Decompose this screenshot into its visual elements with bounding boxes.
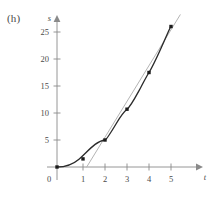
data-point-t4: [147, 71, 150, 74]
x-axis-arrow-icon: [196, 164, 203, 171]
origin-label: 0: [47, 174, 51, 184]
x-tick-label-1: 1: [81, 174, 85, 184]
y-axis-label: s: [48, 13, 52, 23]
y-tick-label-25: 25: [41, 27, 50, 37]
y-tick-label-5: 5: [45, 135, 49, 145]
x-tick-label-4: 4: [147, 174, 152, 184]
x-tick-label-5: 5: [169, 174, 173, 184]
data-point-t3: [125, 108, 128, 111]
figure-container: (h) 1 2 3 4 5 0: [0, 0, 215, 200]
axes-group: [47, 15, 203, 180]
data-point-t2: [103, 138, 106, 141]
y-axis-arrow-icon: [54, 15, 61, 22]
data-point-markers: [55, 25, 172, 169]
x-axis-label: t: [204, 172, 207, 182]
y-axis-tick-labels: 5 10 15 20 25: [41, 27, 50, 145]
data-point-t1: [81, 157, 84, 160]
x-tick-label-2: 2: [103, 174, 107, 184]
chart-plot: 1 2 3 4 5 0 5 10 15 20 25 s t: [0, 0, 215, 200]
data-point-t0: [55, 165, 58, 168]
y-tick-label-15: 15: [41, 81, 50, 91]
x-axis-tick-labels: 1 2 3 4 5: [81, 174, 173, 184]
data-point-t5: [169, 25, 172, 28]
x-tick-label-3: 3: [125, 174, 129, 184]
y-tick-label-20: 20: [41, 54, 50, 64]
data-curve: [57, 26, 171, 167]
y-tick-label-10: 10: [41, 108, 50, 118]
